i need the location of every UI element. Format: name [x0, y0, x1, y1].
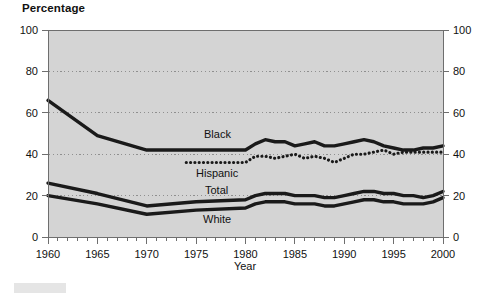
y-tick-label-left-100: 100: [20, 24, 38, 36]
y-tick-label-right-60: 60: [453, 107, 465, 119]
y-tick-label-right-40: 40: [453, 148, 465, 160]
x-tick-label-1995: 1995: [381, 248, 405, 260]
y-tick-label-right-100: 100: [453, 24, 471, 36]
series-label-hispanic: Hispanic: [196, 167, 239, 179]
line-chart: 0020204040606080801001001960196519701975…: [0, 0, 492, 293]
y-tick-label-left-40: 40: [26, 148, 38, 160]
x-tick-label-1990: 1990: [332, 248, 356, 260]
x-tick-label-1975: 1975: [184, 248, 208, 260]
y-tick-label-left-60: 60: [26, 107, 38, 119]
y-tick-label-right-0: 0: [453, 231, 459, 243]
y-tick-label-left-20: 20: [26, 190, 38, 202]
x-axis-title: Year: [234, 260, 257, 272]
page-footer-artifact: [14, 283, 66, 293]
y-tick-label-left-80: 80: [26, 65, 38, 77]
x-tick-label-2000: 2000: [431, 248, 455, 260]
series-label-total: Total: [205, 184, 228, 196]
x-tick-label-1985: 1985: [283, 248, 307, 260]
chart-container: Percentage 00202040406060808010010019601…: [0, 0, 492, 293]
x-tick-label-1960: 1960: [36, 248, 60, 260]
y-tick-label-right-20: 20: [453, 190, 465, 202]
x-tick-label-1980: 1980: [233, 248, 257, 260]
x-tick-label-1965: 1965: [85, 248, 109, 260]
series-label-black: Black: [204, 128, 231, 140]
series-label-white: White: [203, 213, 231, 225]
x-tick-label-1970: 1970: [135, 248, 159, 260]
y-tick-label-right-80: 80: [453, 65, 465, 77]
y-tick-label-left-0: 0: [32, 231, 38, 243]
